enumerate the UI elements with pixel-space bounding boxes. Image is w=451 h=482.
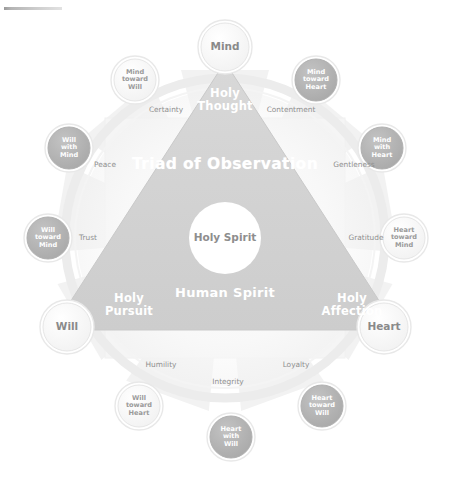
triangle-edge-label-holy-affection: Holy Affection: [307, 292, 397, 318]
virtue-label-trust: Trust: [53, 234, 123, 242]
virtue-label-humility: Humility: [126, 361, 196, 369]
virtue-label-certainty: Certainty: [131, 106, 201, 114]
node-label-heart-toward-will: Heart toward Will: [302, 395, 342, 417]
node-label-mind-with-heart: Mind with Heart: [362, 137, 402, 159]
node-label-heart-with-will: Heart with Will: [211, 426, 251, 448]
triangle-edge-label-holy-pursuit: Holy Pursuit: [84, 292, 174, 318]
virtue-label-integrity: Integrity: [193, 378, 263, 386]
node-label-mind: Mind: [202, 41, 248, 53]
node-label-mind-toward-heart: Mind toward Heart: [296, 69, 336, 91]
node-label-will-toward-heart: Will toward Heart: [119, 395, 159, 417]
virtue-label-gentleness: Gentleness: [319, 161, 389, 169]
node-label-will-with-mind: Will with Mind: [49, 137, 89, 159]
node-label-heart: Heart: [361, 321, 407, 333]
diagram-title: Triad of Observation: [125, 156, 325, 173]
virtue-label-loyalty: Loyalty: [261, 361, 331, 369]
virtue-label-gratitude: Gratitude: [331, 234, 401, 242]
node-label-will: Will: [44, 321, 90, 333]
virtue-label-peace: Peace: [70, 161, 140, 169]
center-label: Holy Spirit: [190, 232, 260, 244]
diagram-canvas: Triad of Observation Human Spirit Holy S…: [0, 0, 451, 482]
node-label-mind-toward-will: Mind toward Will: [115, 69, 155, 91]
virtue-label-contentment: Contentment: [256, 106, 326, 114]
